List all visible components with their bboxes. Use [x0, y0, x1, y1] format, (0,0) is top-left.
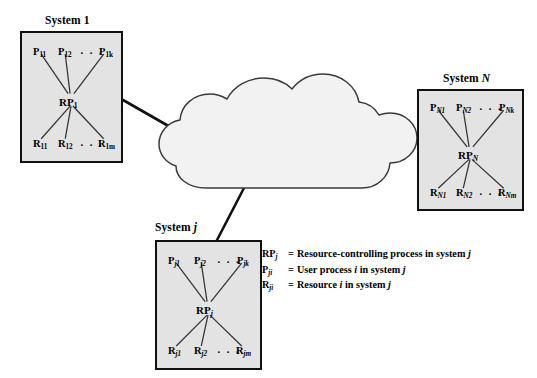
edge-rp1-r1m — [73, 106, 104, 139]
system-N-controller[interactable]: RPN — [458, 150, 478, 161]
system-j-process-1[interactable]: Pj2 — [194, 256, 206, 267]
system-N-resource-1[interactable]: RN2 — [456, 188, 472, 199]
legend-equals-0: = — [288, 247, 297, 261]
system-1-controller[interactable]: RP1 — [59, 97, 77, 108]
edge-pjk-rpj — [211, 263, 242, 301]
edge-rpj-rjm — [210, 315, 242, 346]
legend-symbol-r: Rji — [262, 278, 288, 294]
edge-pN2-rpN — [463, 110, 469, 147]
system-N-title-prefix: System — [443, 72, 479, 84]
link-cloud-to-systemj — [216, 188, 244, 242]
system-1-title: System 1 — [45, 14, 90, 26]
system-1-resource-2[interactable]: R1m — [98, 139, 115, 150]
edge-pj1-rpj — [176, 263, 205, 301]
system-N-box[interactable]: PN1 PN2 · · · PNk RPN RN1 RN2 · · · RNm — [417, 89, 524, 211]
network-diagram-figure: System 1 P11 P12 · · · P1k RP1 R11 R12 — [0, 0, 537, 378]
legend-row-resource: Rji = Resource i in system j — [262, 278, 471, 294]
system-N-resource-0[interactable]: RN1 — [430, 188, 446, 199]
legend-equals-1: = — [288, 263, 297, 277]
edge-pN1-rpN — [438, 110, 467, 147]
system-1-process-0[interactable]: P11 — [33, 47, 46, 58]
legend-text-resource: Resource i in system j — [297, 278, 391, 292]
system-j-box[interactable]: Pj1 Pj2 · · · Pjk RPj Rj1 Rj2 · · · Rjm — [155, 240, 262, 370]
edge-pik-rp1 — [74, 54, 104, 93]
system-1-process-2[interactable]: P1k — [99, 47, 113, 58]
edge-pNk-rpN — [473, 110, 504, 147]
system-j-title: System j — [155, 221, 197, 233]
edge-p12-rp1 — [65, 54, 70, 93]
legend-symbol-p: Pji — [262, 263, 288, 279]
system-j-resource-2[interactable]: Rjm — [236, 346, 251, 357]
legend-row-controller: RPj = Resource-controlling process in sy… — [262, 247, 471, 263]
legend-text-controller: Resource-controlling process in system j — [297, 247, 471, 261]
system-N-process-2[interactable]: PNk — [499, 103, 514, 114]
system-N-process-0[interactable]: PN1 — [430, 103, 445, 114]
system-j-resource-1[interactable]: Rj2 — [194, 346, 207, 357]
system-j-title-index: j — [194, 221, 197, 233]
legend-symbol-rp: RPj — [262, 247, 288, 263]
system-N-title: System N — [443, 72, 490, 84]
network-cloud — [159, 74, 417, 188]
legend-text-process: User process i in system j — [297, 263, 406, 277]
system-1-process-1[interactable]: P12 — [58, 47, 71, 58]
system-1-box[interactable]: P11 P12 · · · P1k RP1 R11 R12 · · · R1m — [20, 31, 123, 163]
edge-pj2-rpj — [201, 263, 207, 301]
system-1-resource-0[interactable]: R11 — [33, 139, 47, 150]
legend-equals-2: = — [288, 278, 297, 292]
system-j-process-0[interactable]: Pj1 — [168, 256, 180, 267]
system-j-resource-0[interactable]: Rj1 — [168, 346, 181, 357]
system-N-process-1[interactable]: PN2 — [456, 103, 471, 114]
system-j-title-prefix: System — [155, 221, 191, 233]
system-N-title-index: N — [482, 72, 490, 84]
legend: RPj = Resource-controlling process in sy… — [262, 247, 471, 294]
system-1-title-index: 1 — [84, 14, 90, 26]
system-1-title-prefix: System — [45, 14, 81, 26]
edge-rpN-rNm — [472, 159, 504, 188]
system-j-process-2[interactable]: Pjk — [237, 256, 249, 267]
system-j-controller[interactable]: RPj — [196, 305, 213, 316]
legend-row-process: Pji = User process i in system j — [262, 263, 471, 279]
system-1-resource-1[interactable]: R12 — [58, 139, 73, 150]
system-N-resource-2[interactable]: RNm — [498, 188, 516, 199]
edge-p11-rp1 — [41, 54, 68, 93]
